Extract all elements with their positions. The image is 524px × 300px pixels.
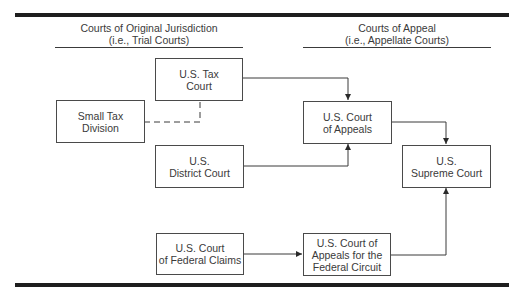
- top-rule: [15, 13, 509, 17]
- edge-circuit-to-supreme: [390, 188, 446, 255]
- header-courts-of-appeal-subtitle: (i.e., Appellate Courts): [303, 34, 491, 46]
- node-us-court-of-federal-claims: U.S. Court of Federal Claims: [156, 233, 244, 275]
- node-small-tax-division: Small Tax Division: [56, 100, 145, 143]
- edge-appeals-to-supreme: [391, 122, 446, 144]
- node-us-court-of-appeals: U.S. Court of Appeals: [303, 101, 392, 144]
- header-courts-of-appeal-title: Courts of Appeal: [303, 22, 491, 34]
- node-us-supreme-court: U.S. Supreme Court: [402, 145, 491, 188]
- header-original-jurisdiction-title: Courts of Original Jurisdiction: [55, 22, 243, 34]
- node-us-tax-court: U.S. Tax Court: [155, 58, 243, 101]
- header-courts-of-appeal: Courts of Appeal (i.e., Appellate Courts…: [303, 22, 491, 46]
- header-original-jurisdiction-subtitle: (i.e., Trial Courts): [55, 34, 243, 46]
- edge-small-tax-to-tax-court: [144, 100, 200, 122]
- header-original-jurisdiction: Courts of Original Jurisdiction (i.e., T…: [55, 22, 243, 46]
- header-courts-of-appeal-rule: [303, 47, 491, 48]
- bottom-rule: [15, 283, 509, 287]
- edge-tax-court-to-appeals: [242, 78, 348, 100]
- edge-district-to-appeals: [243, 144, 348, 166]
- node-us-district-court: U.S. District Court: [155, 145, 244, 188]
- header-original-jurisdiction-rule: [55, 47, 243, 48]
- node-us-court-of-appeals-federal-circuit: U.S. Court of Appeals for the Federal Ci…: [303, 233, 391, 276]
